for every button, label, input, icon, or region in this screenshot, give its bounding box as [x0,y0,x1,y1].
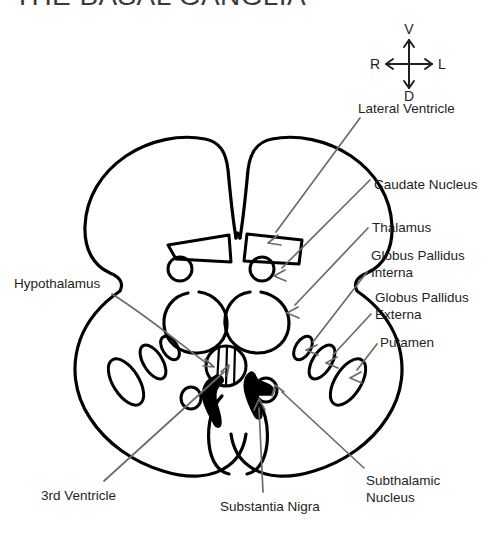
third-ventricle-striation-3 [234,349,235,384]
label-lateral-ventricle: Lateral Ventricle [358,100,455,117]
leader-substantia-nigra [259,408,263,492]
leader-globus-pallidus-externa [333,314,371,355]
orientation-compass: V D R L [370,21,446,104]
leader-caudate-nucleus [282,180,370,268]
label-third-ventricle: 3rd Ventricle [41,487,116,504]
globus-pallidus-externa-shape-left [135,341,171,383]
label-thalamus: Thalamus [372,219,431,236]
diagram-page: THE BASAL GANGLIA [0,0,503,540]
leader-putamen [357,344,377,370]
compass-label-right: L [438,56,446,72]
leader-thalamus [295,228,368,305]
arrowhead-hypothalamus [203,359,214,367]
label-globus-pallidus-externa: Globus Pallidus Externa [375,289,469,323]
label-substantia-nigra: Substantia Nigra [220,498,320,515]
leader-third-ventricle [104,372,224,481]
putamen-shape-right [323,353,373,411]
label-caudate-nucleus: Caudate Nucleus [374,176,478,193]
arrowhead-caudate-nucleus [274,270,286,281]
leader-lateral-ventricle [276,118,360,232]
label-globus-pallidus-interna: Globus Pallidus Interna [371,247,465,281]
arrowhead-putamen [350,372,362,383]
thalamus-shape-right [225,292,289,353]
interhemispheric-fissure [236,233,240,238]
leader-globus-pallidus-interna [313,272,367,342]
label-subthalamic-nucleus: Subthalamic Nucleus [366,472,440,506]
label-putamen: Putamen [380,334,434,351]
label-hypothalamus: Hypothalamus [14,275,100,292]
compass-label-left: R [370,56,380,72]
thalamus-shape-left [164,292,227,353]
leader-subthalamic-nucleus [282,392,364,468]
subthalamic-nucleus-shape-left [181,387,201,409]
compass-label-up: V [404,21,414,37]
